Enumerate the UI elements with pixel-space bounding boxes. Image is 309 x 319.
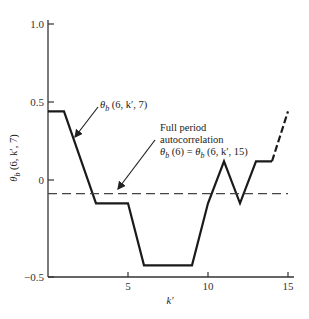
x-tick-label: 15 bbox=[283, 280, 295, 292]
y-tick-label: 0 bbox=[39, 174, 45, 186]
curve-annotation-arrow bbox=[75, 107, 98, 137]
autocorrelation-annotation-line3: θb (6) = θb (6, k′, 15) bbox=[160, 146, 248, 160]
y-tick-label: −0.5 bbox=[24, 271, 44, 283]
y-axis-label: θb (6, k′, 7) bbox=[8, 134, 22, 182]
autocorrelation-annotation-line1: Full period bbox=[160, 122, 207, 133]
autocorrelation-annotation: Full period autocorrelation θb (6) = θb … bbox=[118, 122, 248, 189]
curve-annotation-label: θb (6, k′, 7) bbox=[100, 99, 148, 113]
autocorrelation-chart: 1.00.50−0.5 51015 θb (6, k′, 7) k′ θb (6… bbox=[0, 0, 309, 319]
y-tick-label: 0.5 bbox=[30, 96, 44, 108]
autocorrelation-annotation-line2: autocorrelation bbox=[160, 134, 224, 145]
correlation-curve-dashed-end bbox=[272, 111, 288, 161]
x-tick-label: 5 bbox=[125, 280, 131, 292]
curve-annotation: θb (6, k′, 7) bbox=[75, 99, 148, 137]
y-tick-label: 1.0 bbox=[30, 18, 44, 30]
x-tick-label: 10 bbox=[203, 280, 215, 292]
x-axis-label: k′ bbox=[167, 295, 175, 306]
x-ticks: 51015 bbox=[125, 272, 294, 292]
autocorrelation-annotation-arrow bbox=[118, 140, 155, 189]
y-ticks: 1.00.50−0.5 bbox=[24, 18, 54, 283]
